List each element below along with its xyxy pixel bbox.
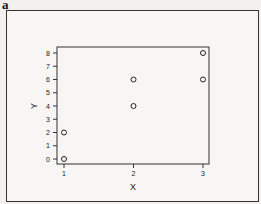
plot-area — [57, 47, 209, 164]
y-tick-label: 8 — [46, 50, 50, 57]
y-tick-label: 7 — [46, 63, 50, 70]
y-tick-label: 6 — [46, 76, 50, 83]
x-tick-label: 2 — [132, 170, 136, 177]
data-point — [201, 51, 206, 56]
data-point — [201, 77, 206, 82]
y-tick-label: 4 — [46, 103, 50, 110]
x-tick-label: 3 — [201, 170, 205, 177]
y-axis-label: Y — [29, 103, 39, 109]
y-tick-label: 2 — [46, 129, 50, 136]
y-tick-label: 0 — [46, 156, 50, 163]
y-tick-label: 3 — [46, 116, 50, 123]
x-tick-label: 1 — [62, 170, 66, 177]
data-point — [62, 157, 67, 162]
x-axis-label: X — [130, 182, 136, 192]
y-tick-label: 1 — [46, 142, 50, 149]
x-axis: 123 — [62, 164, 205, 177]
data-point — [131, 104, 136, 109]
data-point — [62, 130, 67, 135]
data-point — [131, 77, 136, 82]
y-tick-label: 5 — [46, 89, 50, 96]
y-axis: 012345678 — [46, 50, 57, 163]
data-points — [62, 51, 206, 162]
scatter-plot: 012345678 123 X Y — [0, 0, 261, 204]
